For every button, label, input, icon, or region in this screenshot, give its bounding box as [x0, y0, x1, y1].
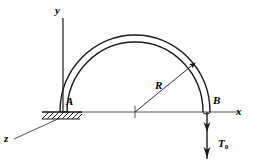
torque-label: T0	[218, 138, 228, 149]
curved-bar-outer-edge	[60, 35, 210, 112]
z-axis-line	[14, 118, 60, 139]
radius-dimension-line	[135, 63, 195, 112]
torque-label-subscript: 0	[225, 143, 229, 151]
figure-canvas	[0, 0, 253, 162]
z-axis-label: z	[4, 133, 8, 144]
x-axis-label: x	[236, 106, 242, 117]
point-b-label: B	[213, 95, 220, 106]
engineering-figure: y x z A B R T0	[0, 0, 253, 162]
torque-label-symbol: T	[218, 137, 225, 149]
point-a-label: A	[66, 96, 73, 107]
y-axis-label: y	[55, 5, 60, 16]
radius-label: R	[155, 80, 162, 91]
support-hatching	[42, 112, 82, 119]
